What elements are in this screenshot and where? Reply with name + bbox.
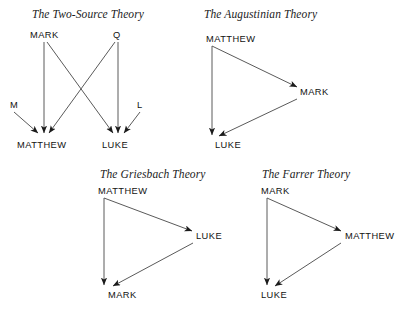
edge-aug-mark-to-luke — [219, 99, 297, 136]
edge-gri-luke-to-mark — [113, 243, 193, 286]
node-q: Q — [113, 30, 121, 40]
edge-aug-matthew-to-mark — [212, 46, 297, 87]
node-mark: MARK — [108, 290, 137, 300]
node-mark: MARK — [30, 30, 59, 40]
edge-far-matthew-to-luke — [275, 243, 341, 286]
node-mark: MARK — [300, 87, 329, 97]
node-matthew: MATTHEW — [206, 34, 255, 44]
node-luke: LUKE — [196, 231, 222, 241]
node-mark: MARK — [261, 186, 290, 196]
node-luke: LUKE — [215, 140, 241, 150]
diagram-title-two-source: The Two-Source Theory — [32, 8, 144, 20]
edge-l-to-luke — [124, 112, 140, 133]
edge-m-to-matthew — [14, 112, 38, 133]
node-matthew: MATTHEW — [98, 186, 147, 196]
edge-mark-to-luke — [47, 42, 113, 133]
node-matthew: MATTHEW — [345, 231, 394, 241]
node-l: L — [137, 100, 143, 110]
diagram-title-augustinian: The Augustinian Theory — [204, 8, 317, 20]
arrow-layer — [0, 0, 409, 313]
edge-far-mark-to-matthew — [267, 198, 341, 231]
diagram-title-griesbach: The Griesbach Theory — [100, 168, 206, 180]
node-m: M — [10, 100, 18, 110]
edge-q-to-matthew — [49, 42, 115, 133]
edge-gri-matthew-to-luke — [104, 198, 192, 231]
node-luke: LUKE — [102, 140, 128, 150]
diagram-canvas: The Two-Source Theory MARK Q M L MATTHEW… — [0, 0, 409, 313]
node-luke: LUKE — [261, 290, 287, 300]
node-matthew: MATTHEW — [17, 140, 66, 150]
diagram-title-farrer: The Farrer Theory — [262, 168, 350, 180]
